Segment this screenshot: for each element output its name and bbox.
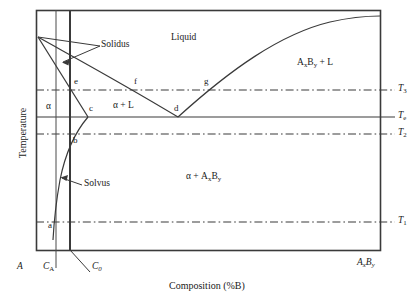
te-sub: e (403, 114, 406, 121)
axby-l-a: A (297, 57, 304, 67)
a-axby-y: y (218, 175, 221, 182)
liquidus-right-curve (178, 16, 380, 117)
point-label-f: f (134, 77, 137, 86)
point-label-a: a (48, 221, 52, 230)
axby-y: y (372, 261, 375, 268)
axby-l-tail: + L (317, 57, 333, 67)
annotation-solvus: Solvus (84, 179, 110, 189)
t1-sub: 1 (403, 219, 406, 226)
region-label-alpha-plus-axby: α + AxBy (186, 172, 221, 183)
x-tick-label-a: A (17, 262, 23, 272)
c0-sub: 0 (98, 265, 101, 272)
region-label-alpha-plus-liquid: α + L (113, 101, 134, 111)
x-tick-label-c0: C0 (92, 262, 102, 273)
point-label-e: e (74, 77, 78, 86)
point-label-g: g (204, 77, 209, 86)
c0-leader-line (70, 250, 90, 272)
region-label-axby-plus-liquid: AxBy + L (297, 58, 333, 69)
temp-label-t3: T3 (398, 84, 407, 95)
point-label-d: d (174, 104, 179, 113)
annotation-solidus: Solidus (101, 40, 130, 50)
t2-sub: 2 (403, 131, 406, 138)
point-label-c: c (89, 104, 93, 113)
temp-label-t1: T1 (398, 216, 407, 227)
x-axis-title: Composition (%B) (169, 281, 245, 291)
plot-frame (37, 11, 381, 251)
region-label-liquid: Liquid (171, 33, 196, 43)
temp-label-te: Te (398, 111, 406, 122)
point-label-b: b (73, 136, 78, 145)
y-axis-title: Temperature (18, 88, 28, 178)
x-tick-label-ca: CA (43, 262, 54, 273)
a-axby-lead: α + A (186, 171, 208, 181)
phase-diagram-figure: Temperature Composition (%B) A CA C0 AxB… (0, 0, 419, 303)
t3-sub: 3 (403, 87, 406, 94)
ca-sub: A (49, 265, 54, 272)
temp-label-t2: T2 (398, 128, 407, 139)
region-label-alpha: α (46, 102, 51, 112)
x-tick-label-axby: AxBy (357, 258, 375, 269)
